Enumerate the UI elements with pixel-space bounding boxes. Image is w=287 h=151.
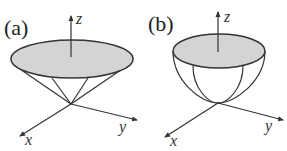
bowl-top-disk [173,34,265,68]
y-axis-b [218,103,283,120]
cone-top-disk [11,40,133,78]
panel-b: (b) z x y [148,8,283,149]
panel-a-label: (a) [4,15,28,40]
panel-b-label: (b) [148,11,174,36]
x-label-b: x [169,132,177,149]
x-label-a: x [24,131,32,148]
y-axis-a [71,104,137,120]
z-label-a: z [75,10,83,27]
figure-canvas: (a) z x y (b) [0,0,287,151]
panel-a: (a) z x y [4,10,137,148]
y-label-a: y [117,118,127,136]
y-label-b: y [263,117,273,135]
z-label-b: z [223,8,231,25]
